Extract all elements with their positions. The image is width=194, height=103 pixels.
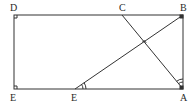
label-C: C [119, 3, 126, 13]
segment-EB [75, 15, 183, 89]
label-E-mid: E [71, 93, 77, 103]
angle-arc-A-1 [179, 82, 184, 84]
segment-CA [122, 15, 183, 89]
right-angle-mark-A [180, 86, 183, 89]
label-E-left: E [10, 93, 16, 103]
angle-arc-E-2 [84, 83, 86, 89]
angle-arc-A-2 [177, 79, 183, 81]
geometry-diagram [0, 0, 194, 103]
rectangle-DBAE [14, 15, 183, 89]
label-A: A [180, 93, 187, 103]
right-angle-mark-B [180, 15, 183, 18]
label-B: B [180, 3, 187, 13]
label-D: D [10, 3, 17, 13]
angle-arc-E-1 [82, 85, 83, 90]
